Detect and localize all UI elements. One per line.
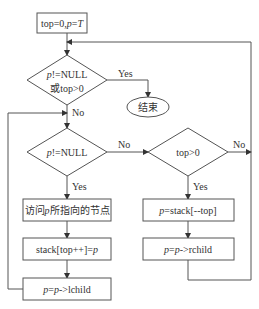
node-cond-p: p!=NULL <box>27 128 107 176</box>
label-no-outer: No <box>72 107 84 118</box>
edge-labels: Yes No No Yes No Yes <box>72 68 245 192</box>
label-yes-cond-p: Yes <box>72 181 87 192</box>
label-no-cond-top: No <box>233 139 245 150</box>
label-no-cond-p: No <box>118 139 130 150</box>
text-part: 或top>0 <box>50 83 83 94</box>
label-yes-cond-top: Yes <box>193 181 208 192</box>
node-cond-top-text: top>0 <box>176 147 199 158</box>
text-part: 所指向的节点 <box>50 204 110 216</box>
node-push-text: stack[top++]=p <box>36 244 98 255</box>
text-part: =stack[--top] <box>164 205 216 216</box>
node-cond-p-text: p!=NULL <box>46 147 88 158</box>
text-part: stack[top++]= <box>36 244 93 255</box>
edge-go-right-to-return <box>188 260 251 280</box>
node-visit: 访问p所指向的节点 <box>23 199 111 221</box>
text-part: p <box>92 244 98 255</box>
label-yes-outer: Yes <box>118 68 133 79</box>
text-part: top>0 <box>176 147 199 158</box>
text-part: ->lchild <box>59 284 91 295</box>
text-part: 结束 <box>138 101 158 113</box>
node-push: stack[top++]=p <box>23 238 111 260</box>
node-cond-outer-text-line1: p!=NULL <box>46 69 88 80</box>
text-part: ->rchild <box>180 244 212 255</box>
node-end-text: 结束 <box>138 101 158 113</box>
node-go-left-text: p=p->lchild <box>42 284 90 295</box>
node-go-left: p=p->lchild <box>23 278 111 300</box>
text-part: !=NULL <box>52 147 88 158</box>
flowchart: Yes No No Yes No Yes top=0,p=T p!=NULL 或… <box>0 0 259 309</box>
node-visit-text: 访问p所指向的节点 <box>25 204 110 216</box>
node-cond-outer-text-line2: 或top>0 <box>50 83 83 94</box>
node-cond-outer: p!=NULL 或top>0 <box>27 55 107 105</box>
node-go-right-text: p=p->rchild <box>163 244 212 255</box>
node-start-text: top=0,p=T <box>41 18 85 29</box>
node-cond-top: top>0 <box>148 128 228 176</box>
node-pop: p=stack[--top] <box>143 199 234 221</box>
node-end: 结束 <box>127 97 169 117</box>
text-part: 访问 <box>25 204 45 216</box>
text-part: !=NULL <box>52 69 88 80</box>
node-start: top=0,p=T <box>37 13 87 33</box>
edge-cond-outer-yes-to-end <box>107 80 148 97</box>
node-pop-text: p=stack[--top] <box>158 205 216 216</box>
node-go-right: p=p->rchild <box>143 238 234 260</box>
text-part: top=0, <box>41 18 67 29</box>
